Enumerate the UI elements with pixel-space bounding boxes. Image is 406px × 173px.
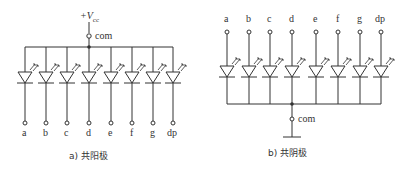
segment-label-a-a: a <box>22 128 26 138</box>
segment-label-b-f: f <box>336 14 339 24</box>
circuit-diagrams <box>0 0 406 173</box>
segment-label-a-e: e <box>108 128 112 138</box>
segment-label-a-b: b <box>43 128 48 138</box>
segment-label-b-g: g <box>357 14 362 24</box>
segment-label-b-b: b <box>246 14 251 24</box>
supply-label-main: +V <box>80 10 93 21</box>
segment-label-b-a: a <box>224 14 228 24</box>
segment-label-b-dp: dp <box>375 14 385 24</box>
supply-voltage-label: +Vcc <box>80 11 99 24</box>
segment-label-b-d: d <box>289 14 294 24</box>
segment-label-a-g: g <box>150 128 155 138</box>
segment-label-a-f: f <box>130 128 133 138</box>
com-label-a: com <box>95 31 112 41</box>
segment-label-b-c: c <box>267 14 271 24</box>
caption-common-anode: a) 共阳极 <box>69 149 108 162</box>
segment-label-b-e: e <box>313 14 317 24</box>
segment-label-a-d: d <box>86 128 91 138</box>
segment-label-a-c: c <box>64 128 68 138</box>
segment-label-a-dp: dp <box>167 128 177 138</box>
caption-common-cathode: b) 共阴极 <box>268 146 307 159</box>
supply-label-subscript: cc <box>93 16 99 24</box>
com-label-b: com <box>298 114 315 124</box>
